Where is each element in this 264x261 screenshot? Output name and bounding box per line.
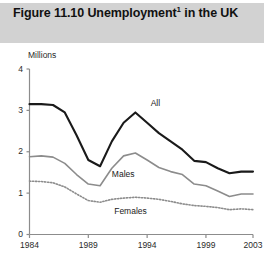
series-line-males xyxy=(30,153,254,196)
y-axis-tick-label: 4 xyxy=(7,64,23,74)
x-axis-tick-label: 1994 xyxy=(127,240,167,250)
x-axis-tick-label: 1989 xyxy=(68,240,108,250)
y-axis-tick-label: 3 xyxy=(7,105,23,115)
x-axis-tick-label: 1984 xyxy=(10,240,50,250)
chart-plot-area xyxy=(0,0,264,261)
figure-container: Figure 11.10 Unemployment1 in the UK Mil… xyxy=(0,0,264,261)
y-axis-tick-label: 2 xyxy=(7,146,23,156)
series-label-females: Females xyxy=(114,206,147,216)
series-label-all: All xyxy=(151,98,160,108)
series-label-males: Males xyxy=(112,169,135,179)
x-axis-tick-label: 2003 xyxy=(233,240,264,250)
x-axis-tick-label: 1999 xyxy=(186,240,226,250)
data-series-group xyxy=(30,104,254,210)
y-axis-tick-label: 0 xyxy=(7,229,23,239)
y-axis-tick-label: 1 xyxy=(7,188,23,198)
